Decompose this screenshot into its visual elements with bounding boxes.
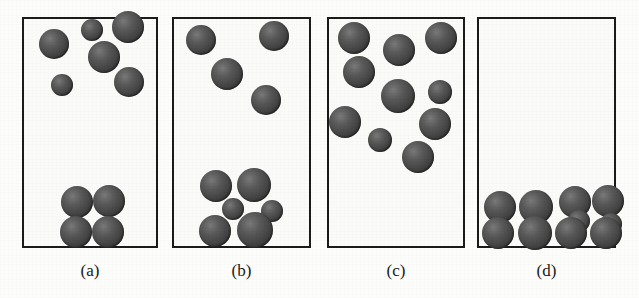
- particle-sphere: [592, 185, 624, 217]
- particle-sphere: [519, 190, 553, 224]
- panel-label-b: (b): [172, 261, 311, 281]
- container-box-c: [327, 17, 465, 248]
- particle-sphere: [590, 217, 622, 249]
- particle-sphere: [600, 213, 622, 235]
- particle-sphere: [484, 191, 516, 223]
- particle-distribution-figure: (a) (b) (c): [0, 0, 639, 298]
- particle-sphere: [237, 168, 271, 202]
- particle-sphere: [402, 141, 434, 173]
- panel-label-c: (c): [327, 261, 465, 281]
- particle-sphere: [259, 21, 289, 51]
- particle-sphere: [81, 19, 103, 41]
- particle-sphere: [186, 25, 216, 55]
- particle-sphere: [419, 108, 451, 140]
- particle-sphere: [199, 215, 231, 247]
- particle-sphere: [251, 85, 281, 115]
- panel-label-d: (d): [477, 261, 616, 281]
- particle-sphere: [425, 22, 457, 54]
- particle-sphere: [338, 22, 370, 54]
- particle-sphere: [39, 29, 69, 59]
- particle-sphere: [381, 79, 415, 113]
- container-box-d: [477, 17, 616, 248]
- particle-sphere: [222, 198, 244, 220]
- particle-sphere: [383, 34, 415, 66]
- panel-label-a: (a): [0, 261, 180, 281]
- particle-sphere: [518, 216, 552, 250]
- particle-sphere: [51, 74, 73, 96]
- particle-sphere: [93, 185, 125, 217]
- particle-sphere: [211, 58, 243, 90]
- particle-sphere: [112, 11, 144, 43]
- container-box-b: [172, 17, 311, 248]
- particle-sphere: [61, 186, 93, 218]
- particle-sphere: [114, 67, 144, 97]
- particle-sphere: [261, 200, 283, 222]
- particle-sphere: [568, 210, 590, 232]
- particle-sphere: [368, 128, 392, 152]
- particle-sphere: [428, 80, 452, 104]
- particle-sphere: [60, 216, 92, 248]
- particle-sphere: [343, 56, 375, 88]
- particle-sphere: [559, 186, 591, 218]
- particle-sphere: [329, 106, 361, 138]
- particle-sphere: [237, 212, 273, 248]
- particle-sphere: [88, 41, 120, 73]
- particle-sphere: [482, 217, 514, 249]
- particle-sphere: [92, 216, 124, 248]
- particle-sphere: [200, 170, 232, 202]
- particle-sphere: [555, 217, 587, 249]
- panel-a: (a): [0, 0, 180, 298]
